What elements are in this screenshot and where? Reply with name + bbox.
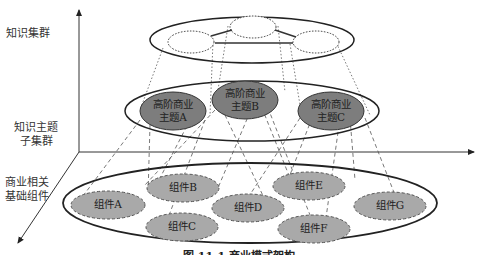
layer-label-base-components: 商业相关 基础组件 <box>5 176 49 204</box>
component-d: 组件D <box>212 201 284 214</box>
architecture-diagram: 知识集群 知识主题 子集群 商业相关 基础组件 高阶商业 主题A 高阶商业 主题… <box>0 0 478 255</box>
component-a: 组件A <box>71 198 145 211</box>
diagram-graphics <box>0 0 478 255</box>
component-b: 组件B <box>147 181 219 194</box>
topic-node-b: 高阶商业 主题B <box>212 87 278 113</box>
layer-label-knowledge-cluster: 知识集群 <box>6 27 50 41</box>
topic-node-a: 高阶商业 主题A <box>140 98 206 124</box>
component-e: 组件E <box>273 179 345 192</box>
component-g: 组件G <box>354 199 426 212</box>
component-c: 组件C <box>146 220 218 233</box>
figure-caption: 图 11-1 商业模式架构 <box>0 247 478 255</box>
layer-label-topic-subcluster: 知识主题 子集群 <box>14 121 58 149</box>
component-f: 组件F <box>278 222 350 235</box>
topic-node-c: 高阶商业 主题C <box>298 98 364 124</box>
